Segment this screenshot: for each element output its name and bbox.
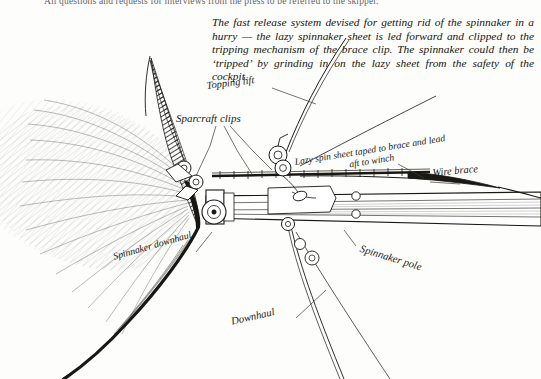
figure-caption: The fast release system devised for gett… [212,16,534,84]
spinnaker-sail [0,56,200,379]
label-sparcraft-clips: Sparcraft clips [176,112,241,124]
scanned-book-page: All questions and requests for interview… [0,0,541,379]
